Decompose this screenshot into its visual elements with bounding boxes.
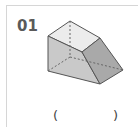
answer-paren-close: ) xyxy=(113,108,118,123)
solid-figure-icon xyxy=(0,0,139,127)
answer-paren-open: ( xyxy=(53,108,58,123)
